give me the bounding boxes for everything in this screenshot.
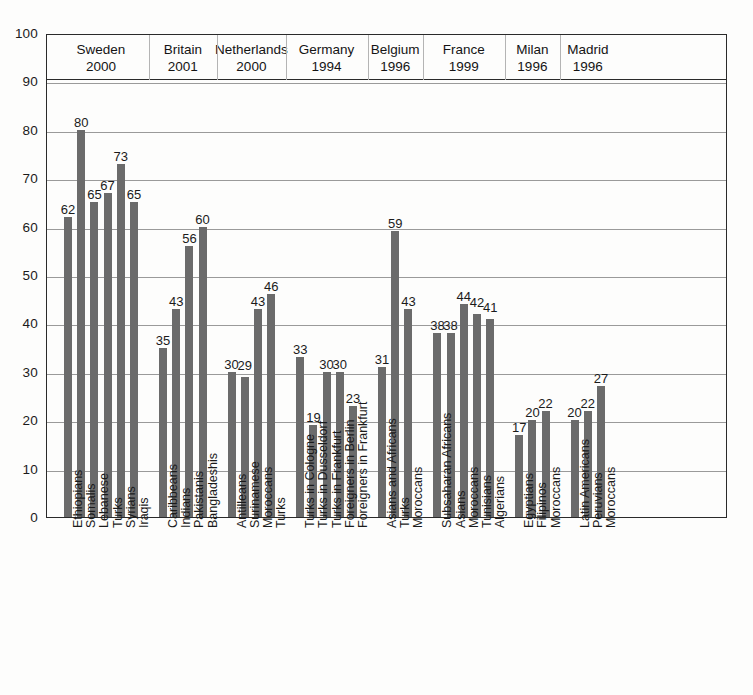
category-label: Turks <box>112 497 125 528</box>
category-label: Foreigners in Frankfurt <box>357 402 370 528</box>
category-label: Turks in Cologne <box>304 434 317 528</box>
bar-value-label: 46 <box>257 280 285 293</box>
category-label: Moroccans <box>550 467 563 528</box>
group-year-label: 1999 <box>449 58 479 75</box>
y-axis-tick: 70 <box>4 172 38 186</box>
bar <box>104 193 112 517</box>
y-axis-tick: 30 <box>4 366 38 380</box>
category-label: Moroccans <box>468 467 481 528</box>
group-header-belgium: Belgium1996 <box>368 35 422 80</box>
y-axis-tick: 0 <box>4 511 38 525</box>
bar-value-label: 41 <box>476 301 504 314</box>
group-country-label: Belgium <box>371 41 420 58</box>
category-label: Bangladeshis <box>207 453 220 528</box>
category-label: Egyptians <box>523 473 536 528</box>
category-label: Turks <box>399 497 412 528</box>
category-label: Asians and Africans <box>386 418 399 528</box>
category-label: Iraqis <box>138 497 151 528</box>
group-header-germany: Germany1994 <box>286 35 367 80</box>
bar-value-label: 65 <box>120 188 148 201</box>
category-label: Filipinos <box>536 482 549 528</box>
group-header-band: Sweden2000Britain2001Netherlands2000Germ… <box>47 35 726 80</box>
group-header-netherlands: Netherlands2000 <box>218 35 286 80</box>
bar-value-label: 27 <box>587 372 615 385</box>
group-header-madrid: Madrid1996 <box>561 35 615 80</box>
gridline <box>47 277 726 278</box>
y-axis-tick: 10 <box>4 463 38 477</box>
group-header-sweden: Sweden2000 <box>52 35 150 80</box>
group-year-label: 2001 <box>168 58 198 75</box>
category-label: Peruvians <box>592 472 605 528</box>
bar <box>90 202 98 517</box>
y-axis-tick: 60 <box>4 221 38 235</box>
gridline <box>47 180 726 181</box>
group-header-milan: Milan1996 <box>505 35 559 80</box>
category-label: Pakistanis <box>193 471 206 528</box>
header-divider <box>560 35 561 80</box>
gridline <box>47 83 726 84</box>
group-country-label: Netherlands <box>215 41 288 58</box>
category-label: Algerians <box>494 476 507 528</box>
category-label: Surinamese <box>249 461 262 528</box>
group-header-britain: Britain2001 <box>149 35 217 80</box>
bar-value-label: 30 <box>326 358 354 371</box>
category-label: Turks in Frankfurt <box>331 431 344 528</box>
bar-value-label: 33 <box>286 343 314 356</box>
category-label: Indians <box>180 488 193 528</box>
group-year-label: 1996 <box>380 58 410 75</box>
category-label: Ethiopians <box>72 470 85 528</box>
category-label: Turks in Dusseldorf <box>317 421 330 528</box>
category-label: Moroccans <box>605 467 618 528</box>
y-axis-tick: 20 <box>4 414 38 428</box>
bar-value-label: 80 <box>67 116 95 129</box>
category-label: Moroccans <box>412 467 425 528</box>
category-label: Caribbeans <box>167 464 180 528</box>
bar-value-label: 43 <box>394 295 422 308</box>
y-axis-tick: 90 <box>4 75 38 89</box>
gridline <box>47 325 726 326</box>
group-year-label: 2000 <box>236 58 266 75</box>
bar-value-label: 22 <box>532 397 560 410</box>
y-axis-tick: 50 <box>4 269 38 283</box>
gridline <box>47 132 726 133</box>
group-year-label: 1996 <box>573 58 603 75</box>
gridline <box>47 374 726 375</box>
bar-value-label: 59 <box>381 217 409 230</box>
bar-value-label: 73 <box>107 150 135 163</box>
header-divider <box>149 35 150 80</box>
group-country-label: France <box>443 41 485 58</box>
category-label: Moroccans <box>262 467 275 528</box>
header-divider <box>217 35 218 80</box>
y-axis-tick: 80 <box>4 124 38 138</box>
category-label: Asians <box>455 490 468 528</box>
header-divider <box>423 35 424 80</box>
group-year-label: 1996 <box>517 58 547 75</box>
y-axis-tick: 100 <box>4 27 38 41</box>
group-year-label: 2000 <box>86 58 116 75</box>
group-country-label: Madrid <box>567 41 608 58</box>
y-axis-tick: 40 <box>4 317 38 331</box>
category-label: Somalis <box>85 484 98 528</box>
group-country-label: Britain <box>164 41 202 58</box>
header-divider <box>286 35 287 80</box>
group-country-label: Milan <box>516 41 548 58</box>
header-divider <box>505 35 506 80</box>
category-label: Turks <box>275 497 288 528</box>
header-divider <box>368 35 369 80</box>
bar <box>130 202 138 517</box>
group-year-label: 1994 <box>312 58 342 75</box>
category-label: Foreigners in Berlin <box>344 420 357 528</box>
category-label: Antilleans <box>236 474 249 528</box>
group-country-label: Germany <box>299 41 355 58</box>
category-label: Lebanese <box>98 473 111 528</box>
category-label: Subsaharan Africans <box>441 413 454 528</box>
category-label: Syrians <box>125 486 138 528</box>
group-header-france: France1999 <box>423 35 504 80</box>
group-country-label: Sweden <box>77 41 126 58</box>
bar-chart: 1009080706050403020100 Sweden2000Britain… <box>0 0 753 695</box>
category-label: Tunisians <box>481 475 494 528</box>
bar-value-label: 60 <box>189 213 217 226</box>
category-label: Latin Americans <box>579 439 592 528</box>
bar <box>117 164 125 517</box>
